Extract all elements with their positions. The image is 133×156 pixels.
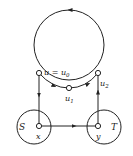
node-y [95,123,100,128]
label-u0: u = u0 [44,68,70,78]
node-u0 [36,70,41,75]
diagram-canvas: u = u0 u1 u2 x y S T [0,0,133,156]
label-S: S [19,122,25,132]
node-u2 [95,70,100,75]
arc-u1-u2 [69,73,98,88]
node-u1 [66,85,71,90]
label-u1: u1 [65,94,74,104]
node-x [36,123,41,128]
label-x: x [36,132,41,141]
label-T: T [111,122,118,132]
label-u2: u2 [100,79,109,89]
label-y: y [95,132,101,141]
